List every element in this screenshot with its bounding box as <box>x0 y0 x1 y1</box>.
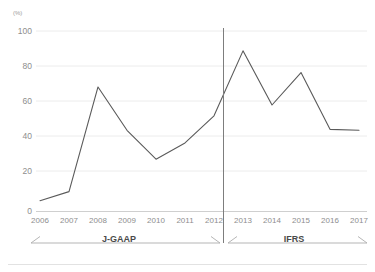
period-bracket-left <box>31 237 220 244</box>
period-bracket-right <box>228 237 367 244</box>
line-chart: (%) 100 80 60 40 20 0 2006 2007 2008 200… <box>0 0 375 272</box>
data-line-series <box>40 51 359 201</box>
gridlines <box>36 31 367 171</box>
chart-canvas <box>0 0 375 272</box>
footer-divider <box>8 264 367 265</box>
